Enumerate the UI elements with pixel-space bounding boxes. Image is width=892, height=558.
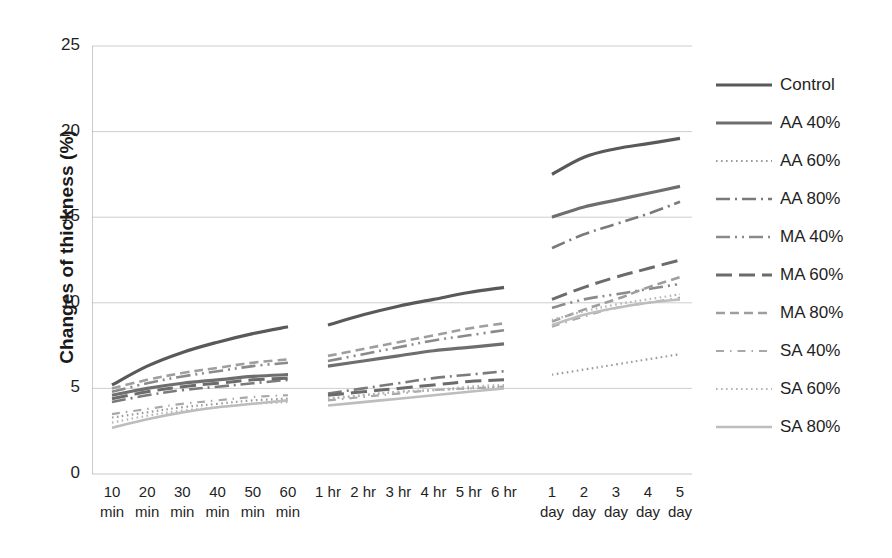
legend-swatch-icon (716, 382, 772, 396)
x-tick-line1: 10 (94, 482, 129, 502)
x-axis-tick-label: 4day (632, 482, 664, 522)
x-axis-tick-label: 30min (165, 482, 200, 522)
x-tick-line2: min (130, 502, 165, 522)
legend-swatch-icon (716, 230, 772, 244)
x-tick-line1: 1 (536, 482, 568, 502)
y-axis-tick-label: 15 (40, 206, 80, 226)
y-axis-tick-label: 20 (40, 121, 80, 141)
x-tick-line1: 3 hr (381, 482, 416, 502)
x-tick-line1: 40 (200, 482, 235, 502)
legend-item-ma-40[interactable]: MA 40% (716, 218, 892, 256)
x-axis-tick-label: 6 hr (486, 482, 521, 502)
legend-swatch-icon (716, 306, 772, 320)
y-axis-tick-labels: 2520151050 (36, 0, 80, 558)
x-tick-line1: 4 (632, 482, 664, 502)
legend-item-control[interactable]: Control (716, 66, 892, 104)
x-axis-tick-labels: 10min20min30min40min50min60min1 hr2 hr3 … (92, 482, 692, 542)
y-axis-tick-label: 5 (40, 377, 80, 397)
x-axis-tick-label: 2day (568, 482, 600, 522)
x-tick-line1: 2 hr (346, 482, 381, 502)
x-axis-tick-label: 4 hr (416, 482, 451, 502)
legend-label: AA 60% (780, 151, 841, 171)
x-tick-line1: 20 (130, 482, 165, 502)
legend-label: AA 40% (780, 113, 841, 133)
x-tick-line2: min (270, 502, 305, 522)
x-tick-line2: min (235, 502, 270, 522)
legend-item-ma-60[interactable]: MA 60% (716, 256, 892, 294)
x-tick-line1: 2 (568, 482, 600, 502)
legend-item-sa-80[interactable]: SA 80% (716, 408, 892, 446)
x-tick-line1: 60 (270, 482, 305, 502)
series-aa-80 (112, 202, 680, 402)
x-axis-tick-label: 10min (94, 482, 129, 522)
y-axis-tick-label: 25 (40, 35, 80, 55)
legend-swatch-icon (716, 154, 772, 168)
series-line (328, 323, 504, 356)
legend-swatch-icon (716, 192, 772, 206)
x-tick-line2: min (94, 502, 129, 522)
x-tick-line1: 30 (165, 482, 200, 502)
series-aa-40 (112, 186, 680, 395)
x-tick-line2: day (664, 502, 696, 522)
x-axis-tick-label: 3 hr (381, 482, 416, 502)
x-axis-tick-label: 2 hr (346, 482, 381, 502)
legend-swatch-icon (716, 344, 772, 358)
x-axis-tick-label: 20min (130, 482, 165, 522)
x-axis-tick-label: 1day (536, 482, 568, 522)
x-tick-line2: min (165, 502, 200, 522)
legend-label: Control (780, 75, 835, 95)
legend-item-ma-80[interactable]: MA 80% (716, 294, 892, 332)
series-ma-40 (112, 284, 680, 392)
x-tick-line2: min (200, 502, 235, 522)
x-axis-tick-label: 40min (200, 482, 235, 522)
plot-area (92, 40, 692, 480)
x-axis-tick-label: 3day (600, 482, 632, 522)
legend-item-aa-60[interactable]: AA 60% (716, 142, 892, 180)
chart-legend: ControlAA 40%AA 60%AA 80%MA 40%MA 60%MA … (716, 66, 892, 446)
x-axis-tick-label: 1 hr (310, 482, 345, 502)
x-tick-line2: day (632, 502, 664, 522)
series-line (328, 287, 504, 325)
series-line (112, 402, 288, 423)
x-axis-group-minutes: 10min20min30min40min50min60min (94, 482, 305, 522)
legend-swatch-icon (716, 420, 772, 434)
series-line (552, 354, 680, 375)
legend-item-sa-40[interactable]: SA 40% (716, 332, 892, 370)
x-tick-line2: day (568, 502, 600, 522)
legend-swatch-icon (716, 116, 772, 130)
x-tick-line1: 5 (664, 482, 696, 502)
x-tick-line1: 6 hr (486, 482, 521, 502)
legend-label: MA 80% (780, 303, 843, 323)
legend-label: MA 40% (780, 227, 843, 247)
x-axis-tick-label: 5 hr (451, 482, 486, 502)
x-tick-line1: 5 hr (451, 482, 486, 502)
x-axis-group-days: 1day2day3day4day5day (536, 482, 696, 522)
x-tick-line2: day (536, 502, 568, 522)
legend-swatch-icon (716, 78, 772, 92)
y-axis-tick-label: 10 (40, 292, 80, 312)
series-ma-80 (112, 277, 680, 388)
x-axis-tick-label: 50min (235, 482, 270, 522)
legend-item-aa-40[interactable]: AA 40% (716, 104, 892, 142)
line-chart-svg (92, 40, 692, 480)
x-axis-tick-label: 60min (270, 482, 305, 522)
legend-label: SA 60% (780, 379, 841, 399)
y-axis-tick-label: 0 (40, 463, 80, 483)
legend-item-sa-60[interactable]: SA 60% (716, 370, 892, 408)
series-line (552, 186, 680, 217)
x-tick-line2: day (600, 502, 632, 522)
x-axis-group-hours: 1 hr2 hr3 hr4 hr5 hr6 hr (310, 482, 521, 502)
series-ma-60 (112, 260, 680, 399)
legend-item-aa-80[interactable]: AA 80% (716, 180, 892, 218)
legend-swatch-icon (716, 268, 772, 282)
x-axis-tick-label: 5day (664, 482, 696, 522)
series-line (552, 260, 680, 299)
legend-label: AA 80% (780, 189, 841, 209)
legend-label: MA 60% (780, 265, 843, 285)
x-tick-line1: 1 hr (310, 482, 345, 502)
chart-page: Changes of thickness (%) 2520151050 10mi… (0, 0, 892, 558)
x-tick-line1: 3 (600, 482, 632, 502)
series-line (552, 138, 680, 174)
series-line (552, 277, 680, 322)
x-tick-line1: 50 (235, 482, 270, 502)
